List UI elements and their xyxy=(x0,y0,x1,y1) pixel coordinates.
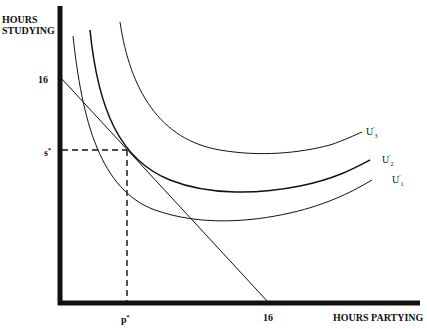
indifference-curve-diagram xyxy=(0,0,427,329)
x-tick-p-star: p* xyxy=(121,312,130,325)
u-sup: ' xyxy=(373,125,374,133)
y-axis-label: HOURS STUDYING xyxy=(2,14,55,36)
u-sup: ' xyxy=(399,173,400,181)
y-tick-16: 16 xyxy=(38,74,48,85)
curve-label-u2: U'2 xyxy=(382,153,394,167)
indifference-curve-u3 xyxy=(120,22,362,154)
y-axis-label-line1: HOURS xyxy=(2,14,55,25)
y-axis-label-line2: STUDYING xyxy=(2,25,55,36)
u-sub: 3 xyxy=(375,133,378,139)
star: * xyxy=(48,147,51,153)
u-sub: 1 xyxy=(401,181,404,187)
x-axis-label: HOURS PARTYING xyxy=(333,312,423,323)
indifference-curve-u2 xyxy=(90,30,370,192)
y-tick-s-star: s* xyxy=(44,145,51,158)
star: * xyxy=(127,314,130,320)
curve-label-u1: U'1 xyxy=(392,173,404,187)
indifference-curve-u1 xyxy=(73,36,372,221)
curve-label-u3: U'3 xyxy=(366,125,378,139)
u-sup: ' xyxy=(389,153,390,161)
budget-line xyxy=(61,78,268,302)
u-sub: 2 xyxy=(391,161,394,167)
x-tick-16: 16 xyxy=(263,312,273,323)
